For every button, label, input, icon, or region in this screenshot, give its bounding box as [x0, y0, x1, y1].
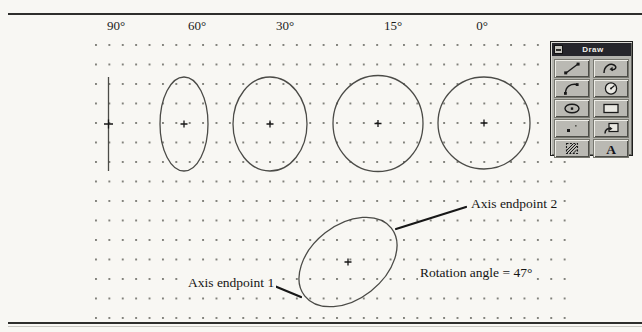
ellipse-tool-button[interactable] [554, 99, 590, 118]
hatch-icon [561, 141, 583, 156]
polyline-tool-button[interactable] [593, 59, 629, 78]
rectangle-tool-button[interactable] [593, 99, 629, 118]
draw-toolbar-title: Draw [563, 45, 631, 54]
rotation-angle-label: Rotation angle = 47° [418, 265, 534, 281]
arc-icon [561, 81, 583, 96]
axis-endpoint-1-label: Axis endpoint 1 [186, 275, 276, 291]
ellipse-90deg [104, 77, 113, 171]
line-tool-button[interactable] [554, 59, 590, 78]
ellipse-15deg [333, 76, 423, 172]
polyline-icon [600, 61, 622, 76]
ellipse-rotated-47deg [282, 199, 414, 325]
rectangle-icon [600, 101, 622, 116]
text-icon: A [600, 141, 622, 156]
figure-page: 90° 60° 30° 15° 0° [0, 0, 642, 332]
circle-icon [600, 81, 622, 96]
arc-tool-button[interactable] [554, 79, 590, 98]
hatch-tool-button[interactable] [554, 139, 590, 158]
ellipse-60deg [160, 77, 208, 171]
line-icon [561, 61, 583, 76]
control-menu-box[interactable] [554, 45, 563, 54]
control-menu-dash-icon [556, 49, 561, 51]
axis-endpoint-2-label: Axis endpoint 2 [469, 196, 559, 212]
draw-toolbar-buttons: A [551, 57, 632, 158]
svg-text:A: A [606, 142, 616, 157]
insert-block-tool-button[interactable] [593, 119, 629, 138]
draw-toolbar-titlebar[interactable]: Draw [552, 43, 631, 56]
ellipse-icon [561, 101, 583, 116]
point-icon [561, 121, 583, 136]
point-tool-button[interactable] [554, 119, 590, 138]
draw-toolbar: Draw [550, 41, 633, 156]
leader-axis-endpoint-2 [396, 207, 466, 229]
insert-block-icon [600, 121, 622, 136]
circle-tool-button[interactable] [593, 79, 629, 98]
text-tool-button[interactable]: A [593, 139, 629, 158]
ellipse-30deg [233, 77, 307, 171]
ellipse-0deg [438, 77, 530, 169]
ellipse-figure [0, 0, 642, 332]
